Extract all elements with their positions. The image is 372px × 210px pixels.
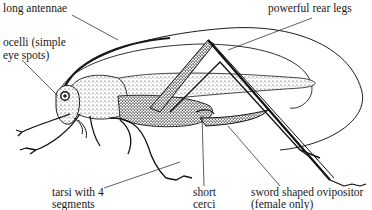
leader-antennae: [72, 15, 118, 40]
label-ocelli-line1: ocelli (simple: [3, 36, 66, 48]
leader-cerci: [202, 116, 204, 186]
label-cerci-line2: cerci: [193, 198, 215, 210]
insect-illustration: [0, 0, 372, 210]
label-long-antennae: long antennae: [3, 2, 67, 14]
label-cerci-line1: short: [193, 186, 216, 198]
label-ocelli-line2: eye spots): [3, 49, 49, 61]
insect-diagram: long antennae powerful rear legs ocelli …: [0, 0, 372, 210]
label-ovipositor-line1: sword shaped ovipositor: [251, 186, 363, 198]
label-tarsi-line1: tarsi with 4: [52, 186, 104, 198]
front-legs: [16, 114, 100, 154]
leader-ocelli: [22, 60, 58, 96]
leader-tarsi: [104, 162, 180, 188]
middle-legs: [110, 118, 192, 180]
label-ovipositor-line2: (female only): [251, 198, 313, 210]
label-tarsi-line2: segments: [52, 198, 95, 210]
label-powerful-rear-legs: powerful rear legs: [268, 2, 352, 14]
leader-ovipositor: [228, 126, 280, 186]
leader-rear-legs: [228, 18, 312, 50]
